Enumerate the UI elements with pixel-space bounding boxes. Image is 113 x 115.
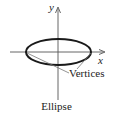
ellipse-diagram: y x Vertices Ellipse xyxy=(0,0,113,115)
y-axis xyxy=(56,7,61,100)
y-axis-label: y xyxy=(49,2,54,13)
vertices-label: Vertices xyxy=(69,68,104,79)
diagram-canvas xyxy=(0,0,113,115)
figure-caption: Ellipse xyxy=(0,101,113,112)
x-axis-label: x xyxy=(98,55,103,66)
